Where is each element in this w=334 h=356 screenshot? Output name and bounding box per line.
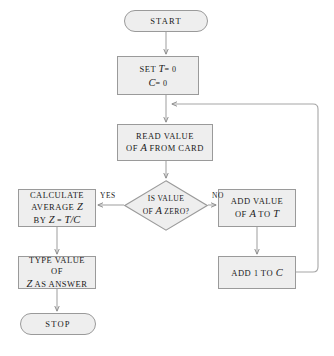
node-decision-line2-prefix: OF [143,207,156,216]
node-addvalue-line1: ADD VALUE [231,196,284,206]
node-type-line1: TYPE VALUE OF [29,255,85,276]
node-decision-line1: IS VALUE [148,194,184,203]
node-addone-label: ADD 1 TO C [228,266,285,279]
node-set-line1-value: = 0 [164,65,176,74]
node-decision-label: IS VALUE OF A ZERO? [140,194,193,217]
node-decision-is-value-zero[interactable]: IS VALUE OF A ZERO? [124,180,208,231]
node-set-line1-prefix: SET [140,64,159,74]
node-addvalue-line2-prefix: OF [235,209,250,219]
node-addone-mid: TO [258,268,275,278]
node-type-line2-suffix: AS ANSWER [32,279,87,289]
flowchart-edges-layer [0,0,334,356]
node-add-one-to-c[interactable]: ADD 1 TO C [218,256,296,289]
node-set-counters[interactable]: SET T= 0 C= 0 [117,56,199,95]
node-read-line1: READ VALUE [136,131,194,141]
node-calculate-line1: CALCULATE [30,190,84,200]
node-addone-var: C [276,267,283,278]
node-start[interactable]: START [124,10,208,32]
node-calculate-line2-prefix: AVERAGE [31,202,77,212]
node-stop-label: STOP [42,319,73,330]
node-calculate-line3-prefix: BY [34,215,49,225]
edge-label-no: NO [212,191,224,200]
node-calculate-line3-eq: = [55,216,65,225]
node-read-label: READ VALUE OF A FROM CARD [123,131,207,155]
node-calculate-label: CALCULATE AVERAGE Z BY Z = T/C [27,190,87,227]
node-calculate-average[interactable]: CALCULATE AVERAGE Z BY Z = T/C [18,189,96,227]
node-calculate-line3-c: C [73,214,80,225]
node-addvalue-label: ADD VALUE OF A TO T [228,196,287,220]
node-read-line2-suffix: FROM CARD [147,143,204,153]
node-read-value[interactable]: READ VALUE OF A FROM CARD [117,124,213,161]
node-addvalue-line2-var2: T [273,208,279,219]
node-start-label: START [147,16,185,27]
node-read-line2-prefix: OF [126,143,141,153]
node-add-value-to-t[interactable]: ADD VALUE OF A TO T [218,189,296,227]
node-addone-prefix: ADD [231,268,254,278]
node-stop[interactable]: STOP [20,313,96,335]
node-type-answer[interactable]: TYPE VALUE OF Z AS ANSWER [18,256,96,289]
flowchart-canvas: START SET T= 0 C= 0 READ VALUE OF A FROM… [0,0,334,356]
node-set-label: SET T= 0 C= 0 [137,62,180,88]
node-decision-line2-suffix: ZERO? [162,207,190,216]
node-addvalue-line2-mid: TO [256,209,273,219]
edge-label-yes: YES [100,191,116,200]
node-type-label: TYPE VALUE OF Z AS ANSWER [19,255,95,289]
node-set-line2-value: = 0 [155,79,167,88]
node-calculate-line2-var: Z [77,201,83,212]
